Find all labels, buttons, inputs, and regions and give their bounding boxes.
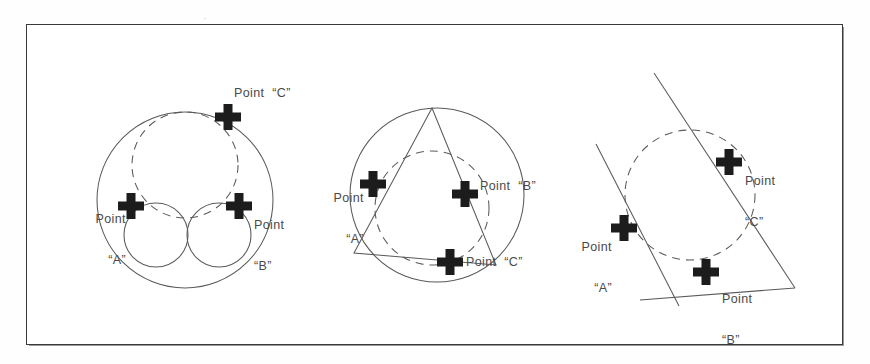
figure-1-label-a-line1: Point — [80, 213, 126, 227]
diagram-sheet: Point “C” Point “A” Point “B” Point “A” … — [0, 0, 870, 364]
figure-2-marker-b — [452, 181, 478, 207]
figure-3-label-c: Point “C” — [745, 148, 776, 256]
figure-3-dashed-circle — [625, 130, 755, 260]
figure-3-marker-a — [611, 215, 637, 241]
figure-2-label-a-line2: “A” — [318, 233, 364, 247]
figure-1-marker-c — [215, 104, 241, 130]
figure-3-tangent-line-lower — [640, 288, 795, 300]
figure-1-label-a-line2: “A” — [80, 254, 126, 268]
figure-2-label-a-line1: Point — [318, 192, 364, 206]
figure-1-label-a: Point “A” — [80, 186, 126, 294]
figure-3-label-a: Point “A” — [566, 214, 612, 322]
figure-3-label-b-line1: Point — [722, 293, 753, 307]
figure-2-label-b: Point “B” — [480, 180, 536, 194]
figure-3-label-c-line1: Point — [745, 175, 776, 189]
figure-2-marker-c — [437, 249, 463, 275]
scan-artifact-speck: · — [203, 12, 207, 24]
figure-2-dashed-incircle — [375, 151, 489, 265]
figure-3-marker-c — [716, 149, 742, 175]
figure-2-label-a: Point “A” — [318, 165, 364, 273]
figure-3-label-a-line2: “A” — [566, 282, 612, 296]
figure-3-marker-b — [693, 259, 719, 285]
figure-1-label-b: Point “B” — [254, 192, 285, 300]
figure-1-label-b-line2: “B” — [254, 260, 285, 274]
figure-3-label-c-line2: “C” — [745, 216, 776, 230]
figure-3-label-a-line1: Point — [566, 241, 612, 255]
figure-1-dashed-circle — [132, 112, 238, 218]
figure-1-label-c: Point “C” — [234, 87, 291, 101]
figure-2-label-c: Point “C” — [466, 256, 523, 270]
figure-3-label-b: Point “B” — [722, 266, 753, 364]
figure-1-marker-b — [226, 193, 252, 219]
figure-3-label-b-line2: “B” — [722, 334, 753, 348]
figure-1-label-b-line1: Point — [254, 219, 285, 233]
